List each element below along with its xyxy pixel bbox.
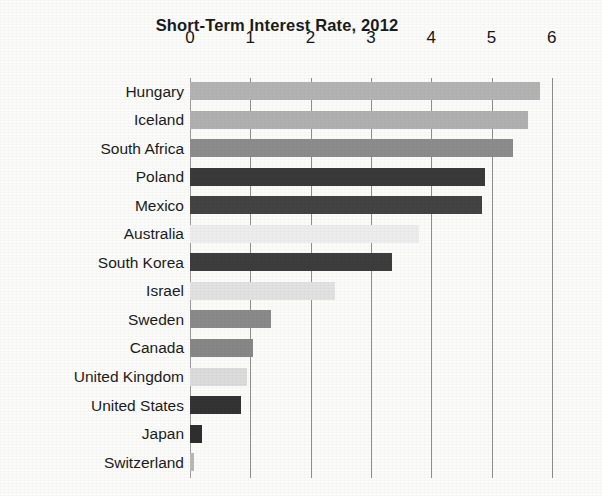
x-tick-label: 0 xyxy=(185,28,194,48)
bar xyxy=(190,139,513,157)
plot-area: 0123456 xyxy=(190,78,553,478)
gridline-0 xyxy=(190,78,191,478)
category-label-sweden: Sweden xyxy=(4,311,184,329)
category-label-united-kingdom: United Kingdom xyxy=(4,368,184,386)
bar xyxy=(190,253,392,271)
bar xyxy=(190,82,540,100)
category-label-hungary: Hungary xyxy=(4,83,184,101)
gridline-1 xyxy=(250,78,251,478)
bar xyxy=(190,225,419,243)
category-label-israel: Israel xyxy=(4,282,184,300)
gridline-5 xyxy=(492,78,493,478)
chart-title: Short-Term Interest Rate, 2012 xyxy=(0,16,602,35)
x-tick-label: 5 xyxy=(487,28,496,48)
bar xyxy=(190,425,202,443)
category-label-iceland: Iceland xyxy=(4,111,184,129)
category-label-switzerland: Switzerland xyxy=(4,454,184,472)
category-label-south-africa: South Africa xyxy=(4,140,184,158)
bar xyxy=(190,453,194,471)
category-label-australia: Australia xyxy=(4,225,184,243)
bar xyxy=(190,282,335,300)
category-label-south-korea: South Korea xyxy=(4,254,184,272)
gridline-6 xyxy=(552,78,553,478)
x-tick-label: 4 xyxy=(426,28,435,48)
category-label-mexico: Mexico xyxy=(4,197,184,215)
gridline-2 xyxy=(311,78,312,478)
bar xyxy=(190,396,241,414)
gridline-3 xyxy=(371,78,372,478)
gridline-4 xyxy=(431,78,432,478)
x-tick-label: 1 xyxy=(246,28,255,48)
x-tick-label: 3 xyxy=(366,28,375,48)
category-label-japan: Japan xyxy=(4,425,184,443)
bar-chart: Short-Term Interest Rate, 2012 HungaryIc… xyxy=(0,0,602,496)
bar xyxy=(190,111,528,129)
bar xyxy=(190,196,482,214)
x-tick-label: 2 xyxy=(306,28,315,48)
category-label-poland: Poland xyxy=(4,168,184,186)
bar xyxy=(190,339,253,357)
x-tick-label: 6 xyxy=(547,28,556,48)
category-label-canada: Canada xyxy=(4,339,184,357)
bar xyxy=(190,368,247,386)
bar xyxy=(190,310,271,328)
category-label-united-states: United States xyxy=(4,397,184,415)
category-axis-labels: HungaryIcelandSouth AfricaPolandMexicoAu… xyxy=(2,78,184,478)
bar xyxy=(190,168,485,186)
